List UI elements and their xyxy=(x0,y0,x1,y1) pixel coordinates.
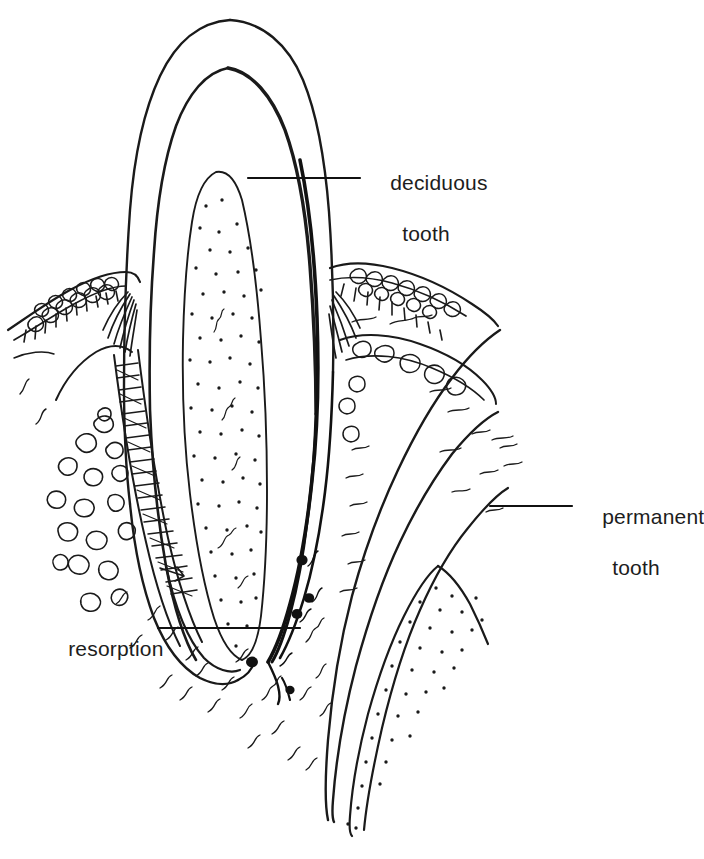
label-deciduous-tooth: deciduous tooth xyxy=(366,144,486,298)
label-deciduous-line1: deciduous xyxy=(390,171,488,194)
label-resorption-line1: resorption xyxy=(68,637,163,660)
label-deciduous-line2: tooth xyxy=(366,221,486,247)
tooth-diagram-figure: deciduous tooth permanent tooth resorpti… xyxy=(0,0,704,859)
label-permanent-tooth: permanent tooth xyxy=(578,478,694,632)
figure-background xyxy=(0,0,704,859)
label-resorption: resorption xyxy=(44,610,204,687)
label-permanent-line2: tooth xyxy=(578,555,694,581)
label-permanent-line1: permanent xyxy=(602,505,704,528)
tooth-diagram-illustration xyxy=(0,0,704,859)
